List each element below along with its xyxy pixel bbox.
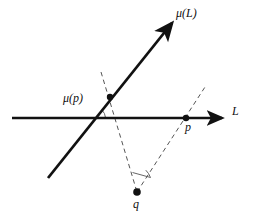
label-mu-of-p: μ(p) bbox=[63, 92, 83, 104]
point-q-marker bbox=[133, 188, 141, 196]
label-point-p: p bbox=[185, 121, 191, 133]
label-point-q: q bbox=[133, 198, 139, 210]
label-line-L: L bbox=[232, 105, 239, 117]
point-mu-p-marker bbox=[107, 94, 113, 100]
geometry-figure: μ(L) μ(p) L p q bbox=[0, 0, 256, 216]
label-mu-of-L: μ(L) bbox=[176, 7, 197, 19]
figure-canvas bbox=[0, 0, 256, 216]
